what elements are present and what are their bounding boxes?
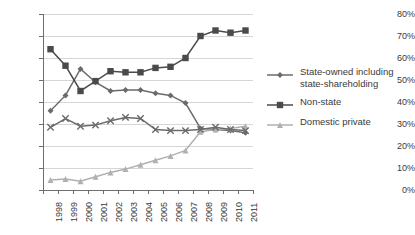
data-point-marker xyxy=(167,64,173,70)
data-point-marker xyxy=(197,33,203,39)
data-point-marker xyxy=(168,92,174,98)
data-point-marker xyxy=(277,72,283,78)
data-point-marker xyxy=(227,30,233,36)
data-point-marker xyxy=(153,90,159,96)
legend-marker-square-icon xyxy=(266,97,294,109)
legend-marker-triangle-icon xyxy=(266,117,294,129)
data-point-marker xyxy=(182,55,188,61)
data-point-marker xyxy=(92,78,98,84)
legend-item-label: Domestic private xyxy=(300,116,371,128)
data-point-marker xyxy=(47,46,53,52)
legend-item[interactable]: Domestic private xyxy=(266,116,412,129)
data-point-marker xyxy=(152,65,158,71)
data-point-marker xyxy=(138,87,144,93)
data-point-marker xyxy=(47,124,53,130)
data-point-marker xyxy=(122,69,128,75)
series-line xyxy=(51,31,246,92)
legend-item[interactable]: State-owned including state-shareholding xyxy=(266,66,412,89)
data-point-marker xyxy=(62,63,68,69)
data-point-marker xyxy=(107,68,113,74)
data-point-marker xyxy=(137,69,143,75)
legend-item-label: State-owned including state-shareholding xyxy=(300,66,412,89)
series-line xyxy=(51,126,246,181)
data-point-marker xyxy=(123,87,129,93)
data-series xyxy=(48,123,249,184)
data-point-marker xyxy=(212,27,218,33)
data-point-marker xyxy=(242,27,248,33)
data-series xyxy=(47,27,248,94)
data-point-marker xyxy=(62,115,68,121)
chart-legend: State-owned including state-shareholding… xyxy=(266,66,412,136)
data-point-marker xyxy=(277,102,283,108)
data-series xyxy=(47,114,248,134)
legend-item-label: Non-state xyxy=(300,96,341,108)
legend-marker-diamond-icon xyxy=(266,67,294,79)
data-point-marker xyxy=(77,88,83,94)
line-chart: 0%10%20%30%40%50%60%70%80% 1998199920002… xyxy=(0,0,415,235)
legend-item[interactable]: Non-state xyxy=(266,96,412,109)
